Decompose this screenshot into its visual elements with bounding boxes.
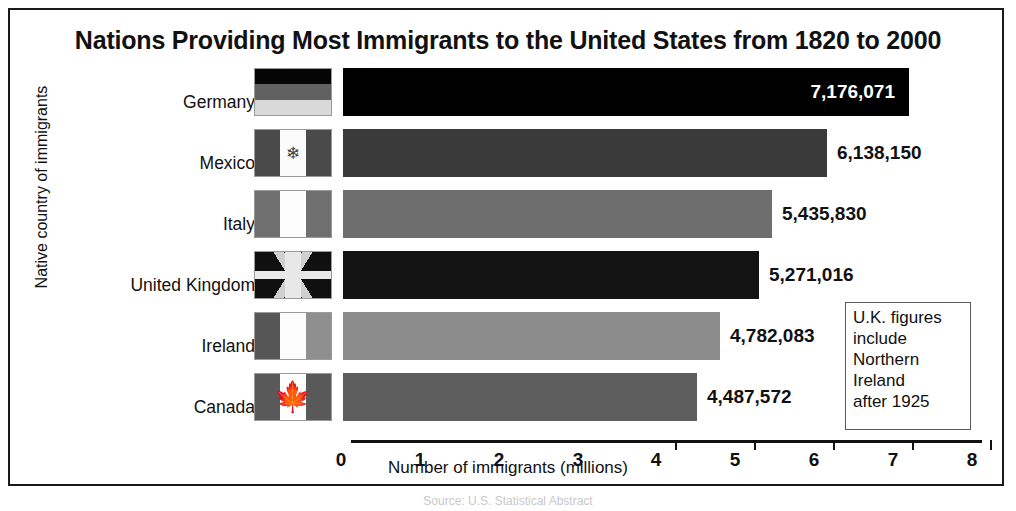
- maple-leaf-icon: 🍁: [274, 382, 311, 412]
- bar-value-ireland: 4,782,083: [730, 325, 815, 347]
- annotation-line-5: after 1925: [853, 392, 963, 413]
- category-label-ireland: Ireland: [50, 336, 255, 357]
- germany-flag: [254, 68, 332, 116]
- bar-value-mexico: 6,138,150: [837, 142, 922, 164]
- bar-united-kingdom[interactable]: [343, 251, 759, 299]
- y-axis-label: Native country of immigrants: [33, 37, 51, 337]
- bar-canada[interactable]: [343, 373, 697, 421]
- x-axis-line: [351, 440, 982, 443]
- canada-flag: 🍁: [254, 373, 332, 421]
- category-label-united-kingdom: United Kingdom: [50, 275, 255, 296]
- x-tick-1: [754, 440, 756, 450]
- annotation-line-1: U.K. figures: [853, 308, 963, 329]
- united-kingdom-flag: [254, 251, 332, 299]
- category-label-mexico: Mexico: [50, 153, 255, 174]
- mexico-flag: ❄: [254, 129, 332, 177]
- chart-frame: Nations Providing Most Immigrants to the…: [8, 8, 1004, 486]
- annotation-line-4: Ireland: [853, 371, 963, 392]
- annotation-line-3: Northern: [853, 350, 963, 371]
- x-axis: [343, 440, 982, 441]
- bar-row-mexico: 6,138,150: [343, 129, 974, 177]
- bar-italy[interactable]: [343, 190, 772, 238]
- bar-mexico[interactable]: [343, 129, 827, 177]
- bar-value-italy: 5,435,830: [782, 203, 867, 225]
- ireland-flag: [254, 312, 332, 360]
- x-tick-2: [833, 440, 835, 450]
- x-tick-0: [675, 440, 677, 450]
- category-label-germany: Germany: [50, 92, 255, 113]
- bar-row-united-kingdom: 5,271,016: [343, 251, 974, 299]
- bar-ireland[interactable]: [343, 312, 720, 360]
- x-axis-label: Number of immigrants (millions): [10, 458, 1006, 478]
- bar-value-germany: 7,176,071: [810, 81, 895, 103]
- source-caption: Source: U.S. Statistical Abstract: [0, 494, 1016, 508]
- annotation-line-2: include: [853, 329, 963, 350]
- annotation-callout: U.K. figures include Northern Ireland af…: [845, 302, 971, 430]
- bar-row-italy: 5,435,830: [343, 190, 974, 238]
- x-tick-4: [990, 440, 992, 450]
- x-tick-3: [912, 440, 914, 450]
- category-label-italy: Italy: [50, 214, 255, 235]
- bar-value-canada: 4,487,572: [707, 386, 792, 408]
- italy-flag: [254, 190, 332, 238]
- category-label-canada: Canada: [50, 397, 255, 418]
- bar-row-germany: 7,176,071: [343, 68, 974, 116]
- chart-title: Nations Providing Most Immigrants to the…: [10, 26, 1006, 55]
- bar-value-united-kingdom: 5,271,016: [769, 264, 854, 286]
- mexico-seal-icon: ❄: [286, 145, 300, 162]
